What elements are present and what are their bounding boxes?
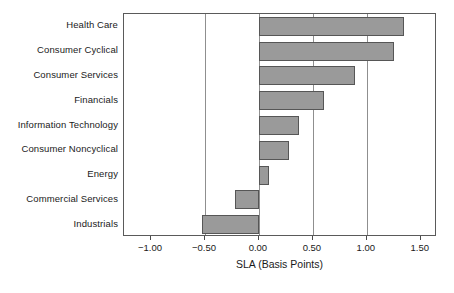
category-axis: Health CareConsumer CyclicalConsumer Ser… xyxy=(0,0,118,237)
category-label: Consumer Noncyclical xyxy=(0,144,118,154)
bar xyxy=(259,91,324,110)
bar xyxy=(235,190,259,209)
x-axis: −1.00−0.500.000.501.001.50 xyxy=(123,236,436,276)
x-tick-label: 0.00 xyxy=(230,242,286,253)
x-tick-mark xyxy=(312,236,313,240)
category-label: Consumer Services xyxy=(0,70,118,80)
gridline xyxy=(205,14,206,235)
x-tick-label: 0.50 xyxy=(284,242,340,253)
category-label: Financials xyxy=(0,95,118,105)
x-tick-label: 1.50 xyxy=(392,242,448,253)
bar xyxy=(259,42,394,61)
bar xyxy=(202,215,259,234)
category-label: Information Technology xyxy=(0,120,118,130)
x-tick-mark xyxy=(420,236,421,240)
x-tick-label: 1.00 xyxy=(338,242,394,253)
category-label: Energy xyxy=(0,169,118,179)
category-label: Consumer Cyclical xyxy=(0,45,118,55)
x-tick-mark xyxy=(258,236,259,240)
category-label: Health Care xyxy=(0,20,118,30)
bar xyxy=(259,17,404,36)
x-tick-mark xyxy=(150,236,151,240)
bar-chart: Health CareConsumer CyclicalConsumer Ser… xyxy=(0,0,454,293)
bar xyxy=(259,66,355,85)
x-tick-mark xyxy=(204,236,205,240)
x-tick-label: −1.00 xyxy=(122,242,178,253)
x-tick-label: −0.50 xyxy=(176,242,232,253)
plot-area xyxy=(123,13,436,236)
bar xyxy=(259,166,269,185)
category-label: Industrials xyxy=(0,219,118,229)
bar xyxy=(259,116,299,135)
x-axis-title: SLA (Basis Points) xyxy=(123,258,436,270)
bar xyxy=(259,141,289,160)
x-tick-mark xyxy=(366,236,367,240)
category-label: Commercial Services xyxy=(0,194,118,204)
